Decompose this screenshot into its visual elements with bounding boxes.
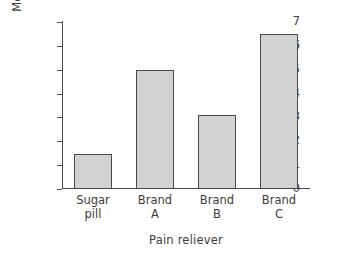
x-category-label: Brand A xyxy=(124,194,186,221)
y-axis-title: Mean pain tolerance xyxy=(10,0,28,36)
bar xyxy=(260,34,297,189)
y-tick-mark xyxy=(57,165,62,166)
y-tick-label: 7 xyxy=(278,16,300,28)
y-tick-mark xyxy=(57,46,62,47)
y-tick-mark xyxy=(57,117,62,118)
bar xyxy=(198,115,235,189)
x-category-label: Brand C xyxy=(248,194,310,221)
y-tick-mark xyxy=(57,22,62,23)
x-axis-title: Pain reliever xyxy=(62,233,310,247)
y-tick-mark xyxy=(57,94,62,95)
y-tick-mark xyxy=(57,189,62,190)
y-tick-mark xyxy=(57,70,62,71)
x-category-label: Brand B xyxy=(186,194,248,221)
plot-area: 01234567 xyxy=(62,22,310,189)
bar-chart-figure: Mean pain tolerance 01234567 Sugar pillB… xyxy=(0,0,341,262)
x-category-label: Sugar pill xyxy=(62,194,124,221)
y-tick-mark xyxy=(57,141,62,142)
bar xyxy=(74,154,111,189)
y-axis-line xyxy=(62,21,63,189)
bar xyxy=(136,70,173,189)
